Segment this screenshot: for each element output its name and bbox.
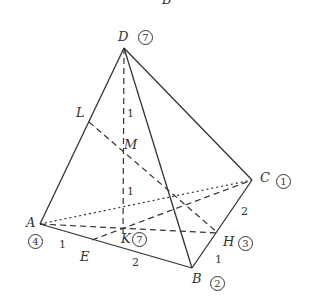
length-AE: 1 [59, 239, 66, 250]
edge-BC [192, 180, 252, 268]
badge-K: 7 [132, 232, 147, 247]
top-cut-label: B [162, 0, 172, 6]
edge-DC [124, 48, 252, 180]
edge-DA [40, 48, 124, 224]
label-M: M [124, 138, 137, 151]
length-EB: 2 [132, 257, 139, 268]
length-DM: 1 [127, 108, 134, 119]
badge-H: 3 [238, 236, 253, 251]
label-H: H [223, 235, 234, 248]
length-MK: 1 [127, 186, 134, 197]
label-E: E [80, 250, 90, 263]
badge-B: 2 [210, 276, 225, 291]
tetrahedron-diagram: B D 7 L M 1 1 C 1 2 A 4 1 E 2 K 7 H 3 1 … [0, 0, 318, 307]
figure-lines [0, 0, 318, 307]
length-HC: 2 [241, 206, 248, 217]
label-K: K [121, 232, 131, 245]
label-D: D [118, 30, 128, 43]
badge-D: 7 [138, 30, 153, 45]
label-L: L [76, 106, 85, 119]
label-C: C [260, 171, 270, 184]
edge-AC [40, 180, 252, 224]
label-A: A [26, 216, 35, 229]
badge-C: 1 [276, 174, 291, 189]
length-BH: 1 [215, 254, 222, 265]
label-B: B [192, 272, 202, 285]
badge-A: 4 [28, 234, 43, 249]
